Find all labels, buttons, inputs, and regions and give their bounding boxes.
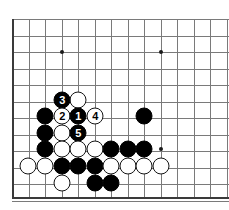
white-stone-row5-4[interactable] <box>120 158 137 175</box>
white-stone-center-1[interactable] <box>54 125 71 142</box>
black-stone-row5-3[interactable] <box>87 158 104 175</box>
black-stone-move-3[interactable]: 3 <box>54 92 71 109</box>
white-stone-d-top[interactable] <box>70 92 87 109</box>
black-stone-row6-1[interactable] <box>87 175 104 192</box>
black-stone-row6-2[interactable] <box>103 175 120 192</box>
black-stone-right-isolated[interactable] <box>136 108 153 125</box>
stone-move-number: 5 <box>75 127 81 138</box>
black-stone-left-2[interactable] <box>37 125 54 142</box>
black-stone-row5-2[interactable] <box>70 158 87 175</box>
white-stone-row5-6[interactable] <box>153 158 170 175</box>
black-stone-row5-1[interactable] <box>54 158 71 175</box>
go-board-surface[interactable]: 32145 <box>0 0 229 210</box>
grid-line-vertical <box>210 19 211 197</box>
white-stone-move-2[interactable]: 2 <box>54 108 71 125</box>
white-stone-row4-3[interactable] <box>87 141 104 158</box>
grid-line-vertical <box>194 19 195 197</box>
white-stone-row5-2[interactable] <box>37 158 54 175</box>
grid-line-vertical <box>177 19 178 197</box>
white-stone-row5-3[interactable] <box>103 158 120 175</box>
star-point-upper-left <box>60 50 64 54</box>
white-stone-move-4[interactable]: 4 <box>87 108 104 125</box>
grid-line-vertical <box>227 19 228 197</box>
white-stone-row6-1[interactable] <box>54 175 71 192</box>
stone-move-number: 1 <box>75 110 81 121</box>
stone-move-number: 4 <box>92 110 98 121</box>
board-left-edge <box>12 19 14 199</box>
go-board-diagram: 32145 <box>0 0 229 210</box>
black-stone-left-1[interactable] <box>37 108 54 125</box>
white-stone-row4-1[interactable] <box>54 141 71 158</box>
stone-move-number: 3 <box>59 94 65 105</box>
white-stone-row5-1[interactable] <box>20 158 37 175</box>
black-stone-move-1[interactable]: 1 <box>70 108 87 125</box>
black-stone-row4-1[interactable] <box>103 141 120 158</box>
black-stone-move-5[interactable]: 5 <box>70 125 87 142</box>
grid-line-horizontal <box>12 201 229 202</box>
black-stone-row4-3[interactable] <box>136 141 153 158</box>
star-point-lower-right <box>159 147 163 151</box>
white-stone-row5-5[interactable] <box>136 158 153 175</box>
black-stone-left-3[interactable] <box>37 141 54 158</box>
star-point-upper-right <box>159 50 163 54</box>
board-bottom-edge <box>12 197 229 199</box>
black-stone-row4-2[interactable] <box>120 141 137 158</box>
stone-move-number: 2 <box>59 110 65 121</box>
white-stone-row4-2[interactable] <box>70 141 87 158</box>
